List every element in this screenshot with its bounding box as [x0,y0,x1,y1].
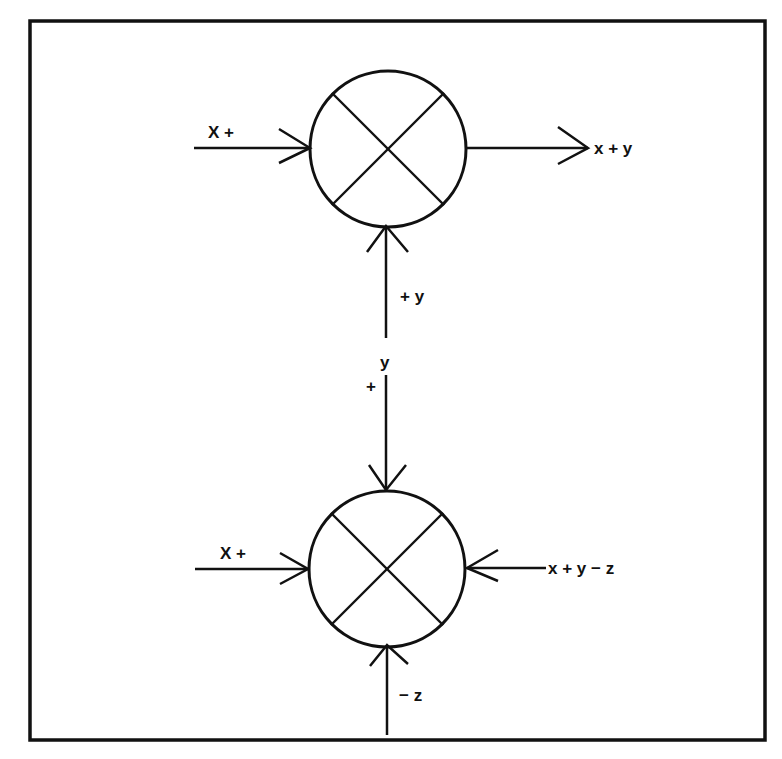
connector-signal-label: y [380,353,390,372]
top-input-y-arrow [367,226,408,338]
bottom-output-arrow [467,550,546,581]
bottom-summing-junction [309,491,465,647]
top-output-label: x + y [594,139,633,158]
bottom-input-x-arrow [195,553,308,584]
top-output-arrow [467,127,588,164]
arrowhead-icon [467,550,498,581]
bottom-input-x-label: X + [220,544,246,563]
top-input-y-label: + y [400,287,425,306]
connector-sign-label: + [366,377,376,396]
arrowhead-icon [279,129,310,163]
top-input-x-label: X + [208,123,234,142]
arrowhead-icon [558,127,588,164]
top-summing-junction [310,71,466,227]
arrowhead-icon [367,226,408,252]
bottom-input-z-label: − z [399,686,422,705]
arrowhead-icon [370,645,408,666]
diagram-canvas: X + x + y + y y + X + x + y − z − z [0,0,782,759]
frame-border [30,21,765,740]
arrowhead-icon [369,465,406,490]
bottom-output-label: x + y − z [548,559,614,578]
